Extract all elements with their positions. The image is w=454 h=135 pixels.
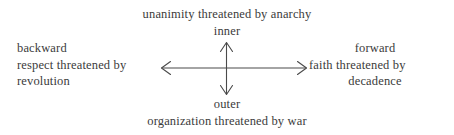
bottom-caption: organization threatened by war (0, 113, 454, 130)
axis-cross-svg (155, 36, 313, 100)
top-caption: unanimity threatened by anarchy (0, 6, 454, 23)
left-block-heading: backward (17, 40, 162, 57)
right-block-line3: decadence (309, 73, 441, 90)
right-block: forward faith threatened by decadence (309, 40, 441, 90)
right-block-heading: forward (309, 40, 441, 57)
axis-cross (155, 36, 313, 100)
axis-label-outer: outer (0, 96, 454, 113)
right-block-line2: faith threatened by (309, 57, 441, 74)
cross-diagram: unanimity threatened by anarchy inner ba… (0, 0, 454, 135)
left-block-line2: respect threatened by (17, 57, 162, 74)
left-block: backward respect threatened by revolutio… (17, 40, 162, 90)
left-block-line3: revolution (17, 73, 162, 90)
